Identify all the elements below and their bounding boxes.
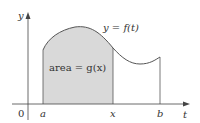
origin-label: 0 <box>18 108 24 119</box>
tick-label-a: a <box>40 108 46 119</box>
curve-label: y = f(t) <box>102 22 139 33</box>
y-axis-arrow-icon <box>26 12 31 19</box>
area-label: area = g(x) <box>49 62 106 73</box>
tick-label-b: b <box>157 108 163 119</box>
t-axis-arrow-icon <box>183 102 190 107</box>
area-function-diagram: y t 0 a x b y = f(t) area = g(x) <box>0 0 200 123</box>
y-axis-label: y <box>17 10 24 21</box>
tick-label-x: x <box>110 108 116 119</box>
t-axis-label: t <box>183 109 188 120</box>
